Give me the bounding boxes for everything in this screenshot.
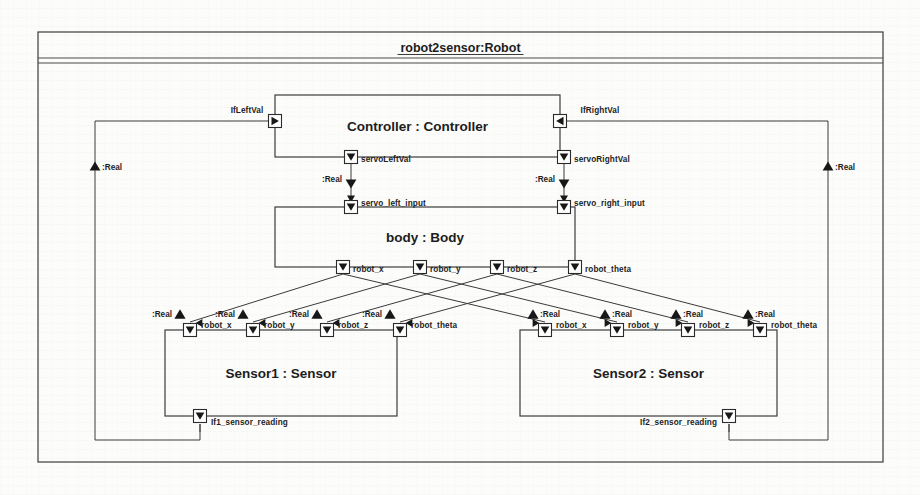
block-label-controller: Controller : Controller <box>347 119 489 134</box>
port-body-robot_theta[interactable] <box>569 261 582 274</box>
flow-arrow-up-right <box>823 161 834 170</box>
port-controller-IfRightVal[interactable] <box>554 115 567 128</box>
port-label: robot_x <box>353 265 384 274</box>
wire-body-to-sensor2-2 <box>497 274 688 322</box>
port-sensor1-robot_x[interactable] <box>184 324 197 337</box>
type-label-real-s2-3: :Real <box>755 310 775 319</box>
port-label-ifleftval: IfLeftVal <box>231 106 264 115</box>
type-label-real-s1-0: :Real <box>152 310 172 319</box>
type-label-real-s2-2: :Real <box>683 310 703 319</box>
flow-arrow-sensor1-3 <box>384 309 395 319</box>
port-body-servo_right_input[interactable] <box>558 201 571 214</box>
flow-arrow-sensor2-1 <box>599 309 610 319</box>
type-label-real-servo-left: :Real <box>322 175 342 184</box>
port-label: servoRightVal <box>574 155 630 164</box>
type-label-real-s2-0: :Real <box>540 310 560 319</box>
port-label: robot_x <box>556 321 587 330</box>
flow-arrow-sensor2-3 <box>742 309 753 319</box>
type-label-real-left: :Real <box>102 163 122 172</box>
wire-body-to-sensor1-1 <box>253 274 420 322</box>
port-label-ifrightval: IfRightVal <box>581 106 620 115</box>
port-sensor1-robot_y[interactable] <box>247 324 260 337</box>
type-label-real-right: :Real <box>835 163 855 172</box>
port-sensor1-robot_z[interactable] <box>321 324 334 337</box>
port-label: robot_y <box>628 321 659 330</box>
port-label: robot_x <box>201 321 232 330</box>
port-controller-IfLeftVal[interactable] <box>269 115 282 128</box>
port-sensor2-robot_theta[interactable] <box>754 324 767 337</box>
port-body-robot_x[interactable] <box>337 261 350 274</box>
flow-arrow-up-left <box>90 161 101 170</box>
flow-arrow-sensor2-0 <box>527 309 538 319</box>
wire-body-to-sensor1-2 <box>327 274 497 322</box>
flow-arrow-sensor1-2 <box>311 309 322 319</box>
port-label: robot_y <box>430 265 461 274</box>
port-sensor2-robot_x[interactable] <box>539 324 552 337</box>
port-label: If1_sensor_reading <box>211 418 288 427</box>
port-sensor1-robot_theta[interactable] <box>394 324 407 337</box>
port-label: robot_z <box>699 321 729 330</box>
diagram-title: robot2sensor:Robot <box>400 41 521 55</box>
port-If2_sensor_reading[interactable] <box>723 410 736 423</box>
block-label-sensor2: Sensor2 : Sensor <box>593 366 705 381</box>
port-label: robot_theta <box>411 321 457 330</box>
port-sensor2-robot_z[interactable] <box>682 324 695 337</box>
flow-arrow-servo-right <box>559 179 570 188</box>
type-label-real-s2-1: :Real <box>612 310 632 319</box>
port-label: robot_theta <box>585 265 631 274</box>
flow-arrow-sensor1-0 <box>174 309 185 319</box>
type-label-real-servo-right: :Real <box>535 175 555 184</box>
port-label: servoLeftVal <box>361 155 411 164</box>
port-body-robot_z[interactable] <box>491 261 504 274</box>
port-label: robot_z <box>507 265 537 274</box>
port-label: servo_left_input <box>361 199 426 208</box>
diagram-canvas: robot2sensor:RobotController : Controlle… <box>0 0 920 495</box>
block-label-sensor1: Sensor1 : Sensor <box>225 366 337 381</box>
port-body-robot_y[interactable] <box>414 261 427 274</box>
port-If1_sensor_reading[interactable] <box>194 410 207 423</box>
type-label-real-s1-3: :Real <box>362 310 382 319</box>
port-body-servo_left_input[interactable] <box>345 201 358 214</box>
port-controller-servoLeftVal[interactable] <box>345 151 358 164</box>
wire-body-to-sensor2-1 <box>420 274 617 322</box>
port-controller-servoRightVal[interactable] <box>558 151 571 164</box>
flow-arrow-sensor1-1 <box>237 309 248 319</box>
port-label: robot_z <box>338 321 368 330</box>
flow-arrow-servo-left <box>346 179 357 188</box>
port-label: robot_theta <box>771 321 817 330</box>
type-label-real-s1-2: :Real <box>289 310 309 319</box>
diagram-svg: robot2sensor:RobotController : Controlle… <box>0 0 920 495</box>
block-label-body: body : Body <box>386 230 464 245</box>
port-label: servo_right_input <box>574 199 645 208</box>
port-sensor2-robot_y[interactable] <box>611 324 624 337</box>
port-label: robot_y <box>264 321 295 330</box>
flow-arrow-sensor2-2 <box>670 309 681 319</box>
port-label: If2_sensor_reading <box>640 418 717 427</box>
type-label-real-s1-1: :Real <box>215 310 235 319</box>
